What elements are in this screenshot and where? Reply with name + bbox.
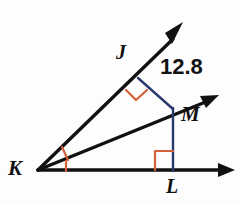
right-angle-at-L [155, 151, 173, 170]
vertex-label-L: L [166, 176, 178, 196]
segment-length-label-JM: 12.8 [160, 56, 203, 78]
vertex-label-K: K [8, 158, 22, 179]
vertex-label-M: M [181, 104, 200, 125]
geometry-canvas [0, 0, 241, 205]
geometry-diagram: K J M L 12.8 [0, 0, 241, 205]
vertex-label-J: J [116, 42, 126, 62]
ray-KJ-line [38, 39, 173, 170]
right-angle-at-J [126, 90, 147, 100]
ray-KJ-arrowhead [165, 22, 183, 44]
ray-KM-arrowhead [200, 95, 219, 108]
ray-KL-arrowhead [218, 163, 235, 177]
